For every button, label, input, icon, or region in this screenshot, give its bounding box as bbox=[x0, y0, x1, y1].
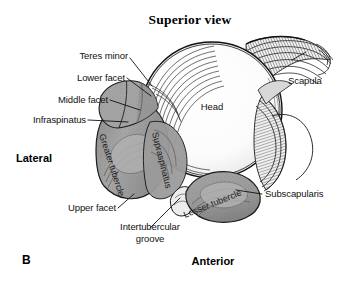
callout-upper-facet: Upper facet bbox=[68, 202, 116, 213]
callout-intertubercular-groove-line1: Intertubercular bbox=[120, 221, 180, 232]
anatomy-figure-panel-b: Greater tubercle Supraspinatus Lesser tu… bbox=[0, 0, 343, 282]
figure-title: Superior view bbox=[149, 12, 232, 28]
humerus-superior-view-illustration: Greater tubercle Supraspinatus Lesser tu… bbox=[0, 0, 343, 282]
callout-teres-minor: Teres minor bbox=[79, 50, 128, 61]
callout-intertubercular-groove-line2: groove bbox=[136, 233, 164, 244]
orientation-lateral: Lateral bbox=[16, 152, 52, 164]
panel-letter: B bbox=[22, 253, 31, 267]
orientation-anterior: Anterior bbox=[192, 255, 235, 267]
callout-infraspinatus: Infraspinatus bbox=[33, 114, 86, 125]
callout-head: Head bbox=[201, 101, 223, 112]
callout-lower-facet: Lower facet bbox=[77, 72, 125, 83]
callout-subscapularis: Subscapularis bbox=[265, 188, 323, 199]
callout-scapula: Scapula bbox=[288, 75, 322, 86]
callout-middle-facet: Middle facet bbox=[58, 94, 108, 105]
